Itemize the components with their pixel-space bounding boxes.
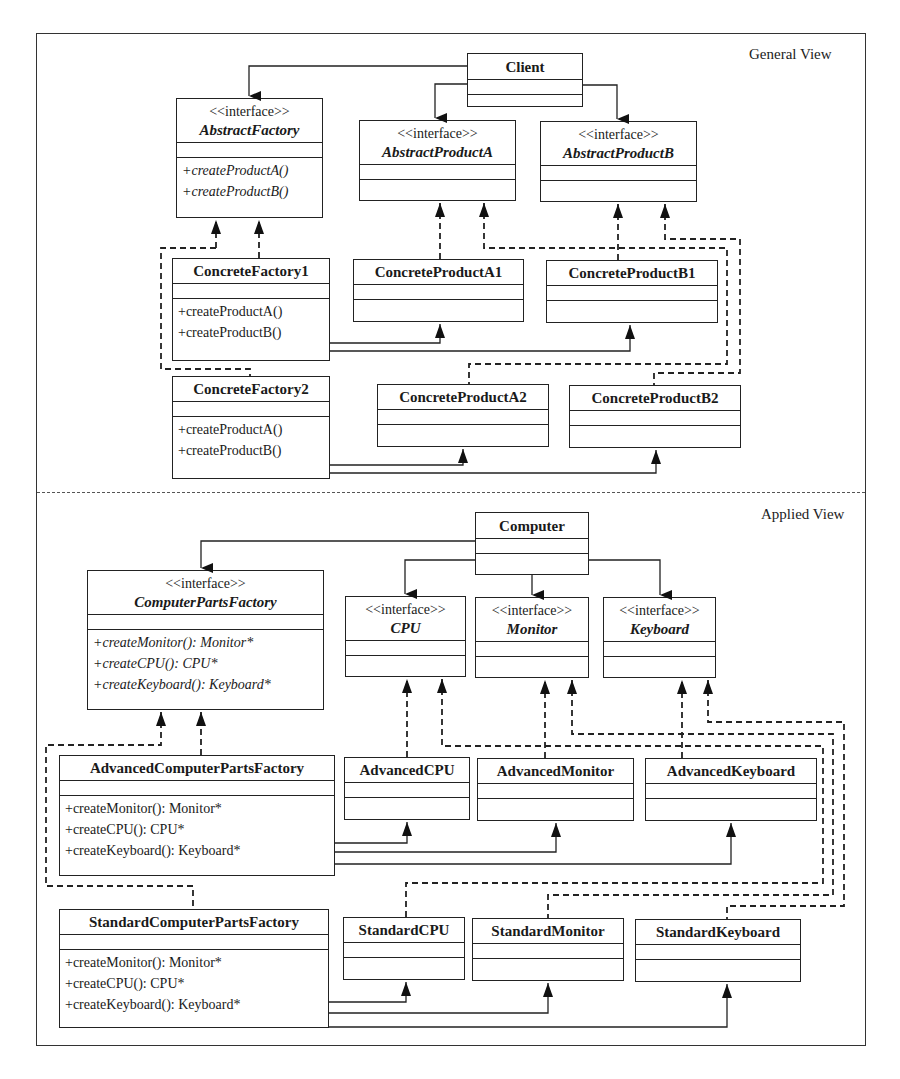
- uml-diagram: General View Applied View Client <<inter…: [0, 0, 900, 1079]
- connectors-layer: [0, 0, 900, 1079]
- realization-lines: [46, 203, 844, 919]
